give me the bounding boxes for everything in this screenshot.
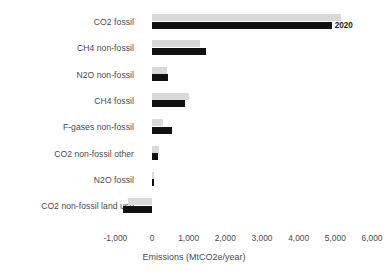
bar-earlier-7: [128, 198, 152, 205]
bar-2020-4: [152, 127, 172, 134]
bar-value-annotation: 2020: [335, 21, 353, 30]
bar-earlier-6: [152, 172, 154, 179]
x-tick-label: 2,000: [215, 233, 236, 243]
bar-2020-6: [152, 179, 154, 186]
bar-earlier-4: [152, 119, 163, 126]
x-tick-label: 1,000: [178, 233, 199, 243]
bar-earlier-1: [152, 40, 200, 47]
x-axis-line: [116, 228, 376, 229]
bar-2020-1: [152, 48, 206, 55]
x-tick-label: -1,000: [103, 233, 127, 243]
x-tick-label: 0: [150, 233, 155, 243]
x-axis-title: Emissions (MtCO2e/year): [0, 252, 388, 263]
plot-area: [0, 0, 388, 228]
bar-earlier-3: [152, 93, 189, 100]
bar-2020-2: [152, 74, 168, 81]
x-tick-label: 3,000: [252, 233, 273, 243]
x-tick-label: 5,000: [325, 233, 346, 243]
x-tick-label: 6,000: [362, 233, 383, 243]
bar-2020-3: [152, 100, 185, 107]
x-tick-label: 4,000: [288, 233, 309, 243]
bar-earlier-5: [152, 146, 159, 153]
bar-earlier-2: [152, 67, 167, 74]
bar-2020-5: [152, 153, 158, 160]
bar-2020-7: [123, 206, 152, 213]
bar-earlier-0: [152, 14, 341, 21]
emissions-bar-chart: CO2 fossilCH4 non-fossilN2O non-fossilCH…: [0, 0, 388, 278]
bar-2020-0: [152, 22, 332, 29]
